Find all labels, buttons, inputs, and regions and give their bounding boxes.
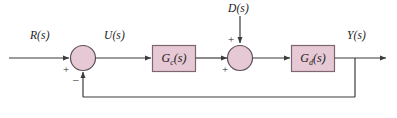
control-signal-label: U(s)	[104, 29, 125, 41]
control-block-diagram: R(s) U(s) D(s) Y(s) Gc(s) Gd(s) + – + +	[0, 0, 397, 118]
diagram-canvas	[0, 0, 397, 118]
disturbance-junction-left-plus-sign: +	[222, 64, 228, 75]
controller-label-tail: (s)	[174, 51, 187, 65]
reference-signal-label: R(s)	[30, 29, 50, 41]
controller-block-label: Gc(s)	[153, 51, 196, 67]
controller-label-main: G	[162, 51, 171, 65]
plant-block-label: Gd(s)	[292, 51, 335, 67]
plant-label-main: G	[300, 51, 309, 65]
plant-label-tail: (s)	[313, 51, 326, 65]
output-signal-label: Y(s)	[347, 29, 366, 41]
disturbance-signal-label: D(s)	[228, 2, 249, 14]
error-junction-circle	[71, 46, 96, 71]
disturbance-junction-top-plus-sign: +	[228, 34, 234, 45]
error-junction-plus-sign: +	[63, 64, 69, 75]
disturbance-junction-circle	[228, 46, 253, 71]
error-junction-minus-sign: –	[73, 74, 79, 85]
